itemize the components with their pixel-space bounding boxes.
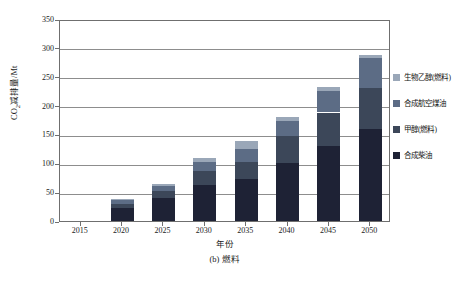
y-axis-ticks: 050100150200250300350 — [0, 20, 59, 222]
x-axis-title: 年份 — [59, 237, 390, 249]
legend-swatch-icon — [393, 100, 400, 107]
x-tick-label: 2025 — [154, 226, 170, 235]
legend-label: 合成柴油 — [404, 151, 432, 160]
y-tick-label: 100 — [42, 160, 54, 168]
bar-segment — [235, 179, 258, 221]
bar-segment — [111, 208, 134, 221]
x-tick-label: 2050 — [361, 226, 377, 235]
bar-segment — [152, 191, 175, 198]
x-tick-label: 2035 — [237, 226, 253, 235]
bar-segment — [359, 55, 382, 58]
y-tick-label: 350 — [42, 16, 54, 24]
bar-segment — [276, 163, 299, 221]
bar-segment — [193, 158, 216, 162]
x-tick-mark — [162, 222, 163, 226]
bar-segment — [317, 87, 340, 90]
bar-segment — [276, 121, 299, 136]
x-tick-label: 2040 — [279, 226, 295, 235]
y-tick-label: 250 — [42, 74, 54, 82]
bar-segment — [359, 129, 382, 221]
bar-segment — [111, 204, 134, 209]
bar-segment — [193, 185, 216, 221]
x-tick-label: 2020 — [113, 226, 129, 235]
bar-segment — [193, 171, 216, 185]
bar-segment — [111, 199, 134, 200]
legend-item-0[interactable]: 生物乙醇(燃料) — [393, 72, 470, 83]
bar-2040[interactable] — [276, 117, 299, 221]
x-tick-label: 2030 — [196, 226, 212, 235]
bar-2020[interactable] — [111, 199, 134, 221]
legend-swatch-icon — [393, 152, 400, 159]
legend-item-1[interactable]: 合成航空煤油 — [393, 98, 470, 109]
bar-segment — [152, 186, 175, 191]
bar-segment — [276, 117, 299, 120]
y-tick-label: 0 — [50, 218, 54, 226]
legend-label: 合成航空煤油 — [404, 99, 446, 108]
figure-container: CO2减排量/Mt 050100150200250300350 20152020… — [0, 0, 470, 283]
x-tick-mark — [287, 222, 288, 226]
y-tick-label: 300 — [42, 45, 54, 53]
x-tick-mark — [245, 222, 246, 226]
x-tick-mark — [328, 222, 329, 226]
x-tick-mark — [369, 222, 370, 226]
x-axis-ticks: 20152020202520302035204020452050 — [59, 222, 390, 238]
bar-segment — [359, 58, 382, 88]
legend-label: 生物乙醇(燃料) — [404, 73, 451, 82]
bar-segment — [235, 141, 258, 149]
x-tick-label: 2015 — [72, 226, 88, 235]
y-tick-label: 150 — [42, 131, 54, 139]
bar-segment — [317, 146, 340, 221]
legend-label: 甲醇(燃料) — [404, 125, 437, 134]
bar-segment — [111, 200, 134, 203]
bar-segment — [317, 113, 340, 146]
legend-item-2[interactable]: 甲醇(燃料) — [393, 124, 470, 135]
plot-area — [59, 20, 390, 222]
legend-swatch-icon — [393, 126, 400, 133]
bar-series-group — [60, 21, 389, 221]
bar-2045[interactable] — [317, 87, 340, 221]
bar-2035[interactable] — [235, 141, 258, 221]
bar-segment — [276, 136, 299, 164]
y-tick-label: 200 — [42, 103, 54, 111]
x-tick-label: 2045 — [320, 226, 336, 235]
legend-swatch-icon — [393, 74, 400, 81]
bar-segment — [193, 162, 216, 171]
y-tick-label: 50 — [46, 189, 54, 197]
bar-segment — [235, 149, 258, 162]
figure-caption: (b) 燃料 — [59, 252, 390, 264]
legend-item-3[interactable]: 合成柴油 — [393, 150, 470, 161]
bar-segment — [152, 198, 175, 221]
legend: 生物乙醇(燃料)合成航空煤油甲醇(燃料)合成柴油 — [393, 72, 470, 176]
x-tick-mark — [204, 222, 205, 226]
bar-2025[interactable] — [152, 184, 175, 222]
bar-2050[interactable] — [359, 55, 382, 221]
bar-segment — [359, 88, 382, 128]
bar-segment — [317, 91, 340, 113]
x-tick-mark — [80, 222, 81, 226]
bar-2030[interactable] — [193, 158, 216, 221]
x-tick-mark — [121, 222, 122, 226]
bar-segment — [152, 184, 175, 186]
bar-segment — [235, 162, 258, 179]
